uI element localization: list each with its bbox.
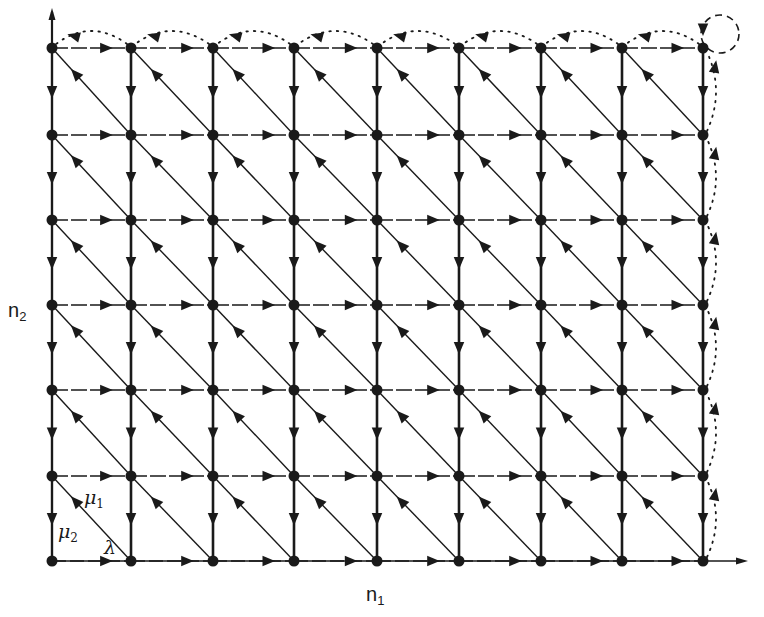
mu1-edge: [213, 390, 294, 476]
state-node: [372, 556, 383, 567]
right-arrow-icon: [590, 215, 603, 226]
down-arrow-icon: [126, 86, 137, 99]
right-arrow-icon: [262, 556, 275, 567]
right-arrow-icon: [100, 471, 113, 482]
state-node: [536, 300, 547, 311]
right-arrow-icon: [671, 43, 684, 54]
right-arrow-icon: [509, 215, 522, 226]
state-node: [47, 556, 58, 567]
lambda-rate-label: λ: [104, 538, 116, 557]
down-arrow-icon: [454, 513, 465, 526]
state-node: [47, 215, 58, 226]
mu1-edge: [294, 476, 377, 561]
mu1-edge: [622, 476, 703, 561]
right-arrow-icon: [590, 385, 603, 396]
mu1-rate-label: μ1: [84, 488, 104, 510]
loop-arrow-icon: [698, 23, 709, 36]
right-arrow-icon: [181, 300, 194, 311]
mu1-edge: [622, 48, 703, 135]
state-node: [372, 300, 383, 311]
state-node: [617, 43, 628, 54]
down-arrow-icon: [208, 342, 219, 355]
state-node: [47, 43, 58, 54]
state-node: [208, 300, 219, 311]
mu1-edge: [459, 476, 541, 561]
state-node: [698, 130, 709, 141]
down-arrow-icon: [454, 257, 465, 270]
mu1-edge: [213, 48, 294, 135]
down-arrow-icon: [208, 257, 219, 270]
down-arrow-icon: [454, 172, 465, 185]
right-arrow-icon: [671, 385, 684, 396]
right-arrow-icon: [590, 556, 603, 567]
right-arrow-icon: [509, 300, 522, 311]
down-arrow-icon: [372, 342, 383, 355]
down-arrow-icon: [617, 86, 628, 99]
right-arrow-icon: [262, 385, 275, 396]
state-node: [617, 215, 628, 226]
state-node: [372, 43, 383, 54]
mu1-edge: [541, 48, 622, 135]
down-arrow-icon: [47, 86, 58, 99]
right-arrow-icon: [262, 130, 275, 141]
mu1-edge: [377, 48, 459, 135]
state-node: [536, 215, 547, 226]
top-boundary-arc: [381, 31, 455, 44]
left-arrow-icon: [146, 29, 161, 42]
down-arrow-icon: [289, 342, 300, 355]
down-arrow-icon: [126, 342, 137, 355]
mu1-edge: [377, 476, 459, 561]
up-arrow-icon: [709, 146, 722, 160]
state-node: [208, 556, 219, 567]
state-node: [454, 130, 465, 141]
y-axis-arrow-icon: [49, 8, 56, 20]
state-node: [126, 130, 137, 141]
lattice-diagram: [0, 0, 764, 617]
x-axis-label: n1: [366, 584, 384, 607]
down-arrow-icon: [47, 257, 58, 270]
mu1-edge: [541, 476, 622, 561]
state-node: [289, 300, 300, 311]
state-node: [289, 130, 300, 141]
right-arrow-icon: [100, 300, 113, 311]
down-arrow-icon: [617, 257, 628, 270]
state-node: [289, 43, 300, 54]
mu1-edge: [622, 220, 703, 305]
right-arrow-icon: [345, 471, 358, 482]
right-arrow-icon: [181, 385, 194, 396]
right-arrow-icon: [345, 300, 358, 311]
mu1-edge: [294, 305, 377, 390]
mu1-edge: [459, 390, 541, 476]
state-node: [454, 471, 465, 482]
right-arrow-icon: [590, 130, 603, 141]
left-arrow-icon: [309, 29, 324, 42]
state-node: [47, 385, 58, 396]
right-arrow-icon: [509, 385, 522, 396]
mu1-edge: [52, 220, 131, 305]
down-arrow-icon: [454, 342, 465, 355]
x-axis-label-text: n: [366, 583, 377, 605]
state-node: [698, 471, 709, 482]
state-node: [698, 215, 709, 226]
down-arrow-icon: [536, 427, 547, 440]
state-node: [126, 43, 137, 54]
state-node: [47, 130, 58, 141]
mu1-edge: [459, 220, 541, 305]
right-arrow-icon: [181, 215, 194, 226]
up-arrow-icon: [709, 231, 722, 245]
state-node: [208, 130, 219, 141]
mu1-edge: [622, 390, 703, 476]
mu1-edge: [294, 135, 377, 220]
down-arrow-icon: [372, 427, 383, 440]
state-node: [372, 471, 383, 482]
down-arrow-icon: [47, 427, 58, 440]
right-arrow-icon: [181, 130, 194, 141]
right-arrow-icon: [671, 556, 684, 567]
mu1-edge: [294, 390, 377, 476]
state-node: [126, 215, 137, 226]
right-arrow-icon: [671, 130, 684, 141]
y-axis-label: n2: [8, 300, 26, 323]
down-arrow-icon: [454, 86, 465, 99]
right-arrow-icon: [509, 471, 522, 482]
top-boundary-arc: [626, 31, 699, 44]
